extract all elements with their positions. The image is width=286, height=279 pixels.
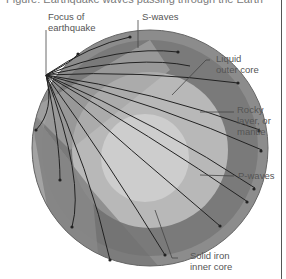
label-focus: Focus of earthquake	[48, 11, 96, 33]
label-p-waves: P-waves	[238, 170, 274, 181]
label-inner-core: Solid iron inner core	[190, 250, 232, 272]
right-border	[281, 0, 282, 279]
label-s-waves: S-waves	[142, 11, 178, 22]
label-outer-core: Liquid outer core	[216, 53, 259, 75]
earth-cross-section	[0, 0, 286, 279]
label-mantle: Rocky layer, or mantle	[237, 104, 271, 137]
